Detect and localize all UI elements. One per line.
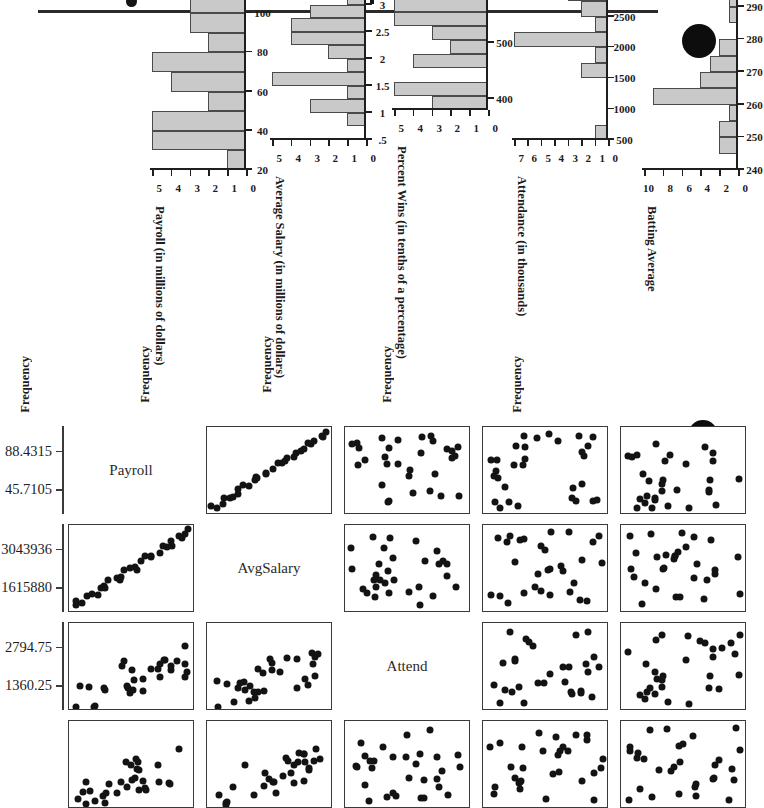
scatter-point [291,780,298,787]
scatter-point [185,526,192,533]
scatter-point [590,434,597,441]
scatter-point [646,478,653,485]
scatter-point [571,579,578,586]
scatter-point [712,761,719,768]
scatter-point [590,797,597,804]
scatter-point [254,475,261,482]
scatter-point [497,699,504,706]
scatter-point [104,577,111,584]
histogram-bar [208,92,246,112]
scatter-point [625,796,632,803]
y-axis-tick [682,170,684,176]
y-axis-tick [541,140,543,146]
scatter-point [117,573,124,580]
matrix-axis-tick-label: 1360.25 [0,677,52,694]
scatter-point [231,699,238,706]
scatter-point [518,744,525,751]
y-axis-tick-label: 1 [217,183,237,194]
y-axis-tick [366,140,368,146]
scatter-point [579,778,586,785]
scatter-point [494,457,501,464]
scatter-point [387,535,394,542]
scatter-point [598,764,605,771]
scatter-point [496,740,503,747]
scatter-point [131,676,138,683]
scatter-point [517,537,524,544]
matrix-scatter-cell [482,720,608,808]
scatter-point [246,698,253,705]
histogram-bar [152,131,246,151]
scatter-point [488,457,495,464]
scatter-point [402,754,409,761]
scatter-point [653,441,660,448]
scatter-point [80,789,87,796]
y-axis-tick [432,110,434,116]
scatter-point [315,651,322,658]
matrix-axis-tick-label: 2794.75 [0,638,52,655]
scatter-point [106,780,113,787]
scatter-point [280,772,287,779]
scatter-point [567,588,574,595]
scatter-point [642,695,649,702]
histogram-attendance: 500100015002000250030003500400001234567 [508,0,634,170]
x-axis-tick [738,136,744,138]
x-axis-tick [366,4,372,6]
scatter-point [183,669,190,676]
scatter-point [277,669,284,676]
scatter-point [412,760,419,767]
scatter-point [545,566,552,573]
scatter-point [737,747,744,754]
histogram-x-axis-title: Payroll (in millions of dollars) [152,206,167,366]
x-axis-tick [366,85,372,87]
y-axis-tick [310,140,312,146]
scatter-point [156,778,163,785]
scatter-point [565,529,572,536]
x-axis-tick [738,5,744,7]
scatter-point [426,726,433,733]
scatter-point [561,679,568,686]
scatter-point [384,460,391,467]
scatter-point [736,671,743,678]
matrix-axis-tick-label: 3043936 [0,540,52,557]
scatter-point [157,673,164,680]
scatter-point [83,779,90,786]
matrix-scatter-cell [620,720,746,808]
scatter-point [390,754,397,761]
scatter-point [142,786,149,793]
y-axis-tick [291,140,293,146]
scatter-point [495,534,502,541]
scatter-point [348,440,355,447]
scatter-point [229,784,236,791]
histogram-bars [150,0,246,170]
scatter-point [517,786,524,793]
scatter-point [554,437,561,444]
scatter-point [127,689,134,696]
x-axis-tick-label: 290 [746,1,763,12]
y-axis-tick-label: 2 [198,183,218,194]
scatter-point [385,567,392,574]
scatter-point [496,593,503,600]
y-axis-line [392,108,488,110]
scatter-point [367,757,374,764]
histogram-bar [152,52,246,72]
histogram-x-axis-title: Batting Average [644,206,659,292]
scatter-point [284,655,291,662]
scatter-point [647,531,654,538]
x-axis-tick [246,129,252,131]
matrix-diagonal-label-payroll: Payroll [68,426,194,514]
histogram-bars [512,0,608,140]
scatter-point [552,733,559,740]
scatter-point [556,769,563,776]
scatter-point [518,777,525,784]
histogram-bar [208,33,246,53]
scatter-point [223,801,230,808]
x-axis-line [486,0,488,110]
scatter-point [417,450,424,457]
histogram-bar [328,46,366,60]
scatter-point [520,589,527,596]
scatter-point [406,466,413,473]
scatter-point [627,744,634,751]
histogram-bar [310,100,366,114]
matrix-scatter-cell [68,720,194,808]
scatter-point [429,437,436,444]
